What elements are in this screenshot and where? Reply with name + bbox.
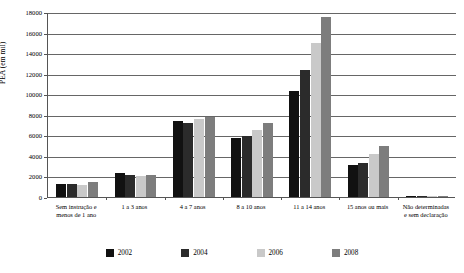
legend-item: 2002 xyxy=(106,249,132,257)
x-axis-category-label: Sem instrução e menos de 1 ano xyxy=(47,203,105,219)
bar xyxy=(115,173,125,197)
bar xyxy=(252,130,262,197)
bar xyxy=(379,146,389,197)
bar xyxy=(136,176,146,197)
legend-label: 2002 xyxy=(118,249,132,257)
y-axis-tick-label: 18000 xyxy=(8,9,42,16)
legend-label: 2006 xyxy=(269,249,283,257)
legend-label: 2008 xyxy=(344,249,358,257)
bar xyxy=(173,121,183,197)
bar xyxy=(56,184,66,197)
x-axis-tick-mark xyxy=(281,197,282,201)
plot-area xyxy=(47,13,455,198)
legend-swatch xyxy=(106,249,114,257)
bar xyxy=(358,163,368,197)
bar-group xyxy=(406,12,448,197)
chart-legend: 2002200420062008 xyxy=(0,249,464,257)
y-axis-tick-label: 6000 xyxy=(8,132,42,139)
x-axis-category-label: 4 a 7 anos xyxy=(164,203,222,211)
x-axis-category-label: 1 a 3 anos xyxy=(105,203,163,211)
bar xyxy=(311,43,321,197)
y-axis-tick-label: 10000 xyxy=(8,91,42,98)
y-axis-tick-label: 0 xyxy=(8,194,42,201)
bar-group xyxy=(231,12,273,197)
bar-group xyxy=(173,12,215,197)
bar xyxy=(231,138,241,197)
y-axis-tick-label: 16000 xyxy=(8,30,42,37)
bar xyxy=(194,119,204,197)
bar xyxy=(125,175,135,197)
x-axis-category-label: Não determinadas e sem declaração xyxy=(397,203,455,219)
legend-swatch xyxy=(332,249,340,257)
y-axis-tick-label: 12000 xyxy=(8,71,42,78)
y-axis-label: PEA (em mil) xyxy=(0,42,7,84)
bar xyxy=(417,196,427,197)
bar xyxy=(263,123,273,197)
bar xyxy=(183,123,193,198)
y-axis-tick-label: 2000 xyxy=(8,173,42,180)
legend-item: 2008 xyxy=(332,249,358,257)
bar-group xyxy=(289,12,331,197)
bar xyxy=(67,184,77,197)
bar-group xyxy=(115,12,157,197)
legend-label: 2004 xyxy=(193,249,207,257)
x-axis-category-label: 11 a 14 anos xyxy=(280,203,338,211)
bar xyxy=(300,70,310,197)
bar xyxy=(438,196,448,197)
bar-chart: PEA (em mil) 020004000600080001000012000… xyxy=(0,0,464,273)
legend-swatch xyxy=(257,249,265,257)
bar xyxy=(321,17,331,197)
bar xyxy=(427,196,437,197)
bar xyxy=(242,136,252,197)
x-axis-tick-mark xyxy=(165,197,166,201)
y-axis-tick-label: 14000 xyxy=(8,50,42,57)
bar xyxy=(348,165,358,197)
bar xyxy=(77,185,87,197)
x-axis-tick-mark xyxy=(398,197,399,201)
x-axis-category-label: 8 a 10 anos xyxy=(222,203,280,211)
legend-swatch xyxy=(181,249,189,257)
y-axis-tick-label: 8000 xyxy=(8,112,42,119)
bar xyxy=(289,91,299,197)
x-axis-tick-mark xyxy=(106,197,107,201)
bar xyxy=(369,154,379,197)
legend-item: 2004 xyxy=(181,249,207,257)
x-axis-tick-mark xyxy=(339,197,340,201)
bar xyxy=(406,196,416,197)
bar xyxy=(88,182,98,197)
x-axis-category-label: 15 anos ou mais xyxy=(338,203,396,211)
y-axis-tick-mark xyxy=(44,198,47,199)
legend-item: 2006 xyxy=(257,249,283,257)
x-axis-tick-mark xyxy=(223,197,224,201)
bar-group xyxy=(348,12,390,197)
bar-group xyxy=(56,12,98,197)
bar xyxy=(205,117,215,197)
bar xyxy=(146,175,156,197)
y-axis-tick-label: 4000 xyxy=(8,153,42,160)
